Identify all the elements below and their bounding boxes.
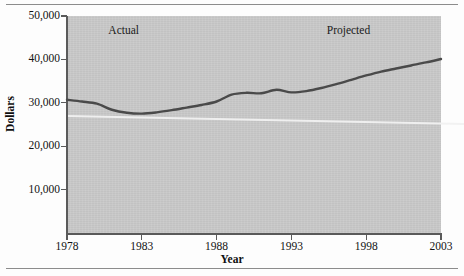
x-tick-label: 1998 [336,240,396,252]
y-tick-label-wrap: 50,000 [0,9,60,23]
x-axis [66,233,442,235]
y-tick-label: 10,000 [2,183,60,195]
top-rule [6,4,458,5]
y-axis-title: Dollars [4,84,16,144]
y-axis [66,16,68,234]
x-axis-title: Year [0,253,464,265]
y-tick-label: 40,000 [2,52,60,64]
y-tick-20000 [61,146,67,147]
x-tick-label: 2003 [411,240,464,252]
plot-area [67,16,441,233]
x-tick-label: 1978 [37,240,97,252]
y-tick-50000 [61,15,67,16]
y-tick-10000 [61,189,67,190]
y-tick-label: 50,000 [2,9,60,21]
x-tick-label: 1988 [187,240,247,252]
y-tick-label-wrap: 40,000 [0,52,60,66]
y-tick-40000 [61,59,67,60]
y-tick-30000 [61,102,67,103]
annotation-actual: Actual [108,24,139,36]
bottom-rule [6,268,458,269]
plot-texture-overlay [67,16,441,233]
y-tick-label-wrap: 10,000 [0,183,60,197]
figure-container: 10,00020,00030,00040,00050,000 197819831… [0,0,464,276]
x-tick-label: 1993 [261,240,321,252]
annotation-projected: Projected [327,24,370,36]
x-tick-label: 1983 [112,240,172,252]
